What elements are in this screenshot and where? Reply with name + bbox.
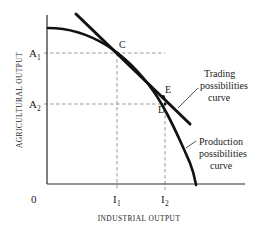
x-axis-title: INDUSTRIAL OUTPUT: [98, 214, 181, 223]
y-tick-a1-subscript: 1: [37, 53, 41, 62]
point-label-c: C: [119, 39, 126, 50]
production-annotation-text: Production possibilities curve: [199, 136, 247, 171]
production-annotation-line3: curve: [210, 160, 233, 171]
y-tick-a2: A 2: [29, 98, 41, 113]
ppf-trading-possibilities-figure: C E D A 1 A 2 I 1 I 2 0 AGRICULTURAL OUT…: [0, 0, 265, 230]
y-tick-a1-label: A: [29, 47, 37, 59]
point-marker-e: [161, 95, 165, 99]
trading-annotation-leader-line: [178, 88, 198, 108]
y-tick-a2-subscript: 2: [37, 104, 41, 113]
production-annotation-leader-line: [186, 141, 196, 148]
y-tick-a1: A 1: [29, 47, 41, 62]
point-marker-c: [115, 51, 118, 54]
reference-gridlines: [44, 53, 170, 190]
figure-canvas: C E D A 1 A 2 I 1 I 2 0 AGRICULTURAL OUT…: [0, 0, 265, 230]
x-tick-i1: I 1: [113, 193, 121, 208]
trading-possibilities-curve: [76, 14, 190, 124]
y-tick-a2-label: A: [29, 98, 37, 110]
production-annotation-line2: possibilities: [199, 148, 247, 159]
y-axis-title: AGRICULTURAL OUTPUT: [15, 52, 24, 148]
trading-annotation-text: Trading possibilities curve: [200, 68, 248, 103]
x-tick-i2: I 2: [161, 193, 169, 208]
production-annotation-line1: Production: [199, 136, 243, 147]
trading-annotation-line2: possibilities: [200, 80, 248, 91]
origin-label: 0: [31, 193, 37, 205]
x-tick-i2-subscript: 2: [165, 199, 169, 208]
trading-annotation-line3: curve: [208, 92, 231, 103]
x-tick-i1-subscript: 1: [117, 199, 121, 208]
point-label-d: D: [158, 104, 165, 115]
trading-annotation-line1: Trading: [204, 68, 235, 79]
point-label-e: E: [165, 84, 171, 95]
